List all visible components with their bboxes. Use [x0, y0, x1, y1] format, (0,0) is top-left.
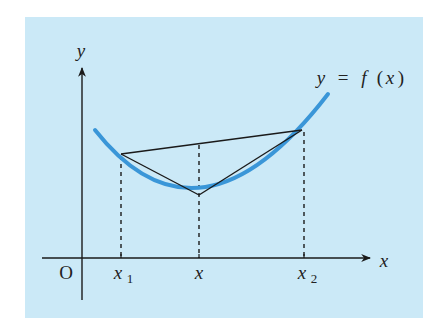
- svg-text:x: x: [385, 67, 395, 88]
- tick-label-x1: x 1: [113, 262, 133, 286]
- svg-text:(: (: [377, 67, 383, 89]
- tick-label-x2: x 2: [297, 262, 317, 286]
- tick-label-x: x: [194, 262, 204, 283]
- convexity-diagram: y x O x 1 x x 2 y = f ( x ): [0, 0, 437, 330]
- x-axis-label: x: [379, 250, 389, 271]
- svg-text:y: y: [315, 67, 326, 88]
- origin-label: O: [59, 262, 73, 283]
- y-axis-label: y: [75, 40, 86, 61]
- svg-text:1: 1: [127, 271, 134, 286]
- svg-text:x: x: [194, 262, 204, 283]
- svg-text:=: =: [338, 67, 349, 88]
- svg-text:): ): [398, 67, 404, 89]
- svg-text:x: x: [297, 262, 307, 283]
- convex-curve: [95, 94, 328, 188]
- segment-x1-x: [121, 154, 199, 195]
- curve-label: y = f ( x ): [315, 67, 404, 89]
- svg-text:x: x: [113, 262, 123, 283]
- segment-x-x2: [199, 130, 302, 195]
- svg-text:f: f: [361, 67, 369, 88]
- svg-text:2: 2: [311, 271, 318, 286]
